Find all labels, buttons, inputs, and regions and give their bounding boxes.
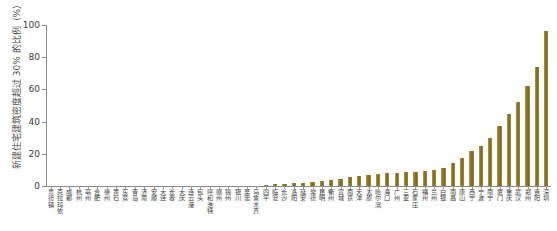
bar (423, 171, 427, 186)
bar (376, 174, 380, 186)
x-tick-label: 克拉玛依 (56, 189, 64, 215)
bar (479, 146, 483, 186)
x-tick-label: 黄石 (112, 189, 120, 202)
x-axis-labels: 景德镇克拉玛依成都杭州亳州合肥徐州黄石东营青岛济南安顺大连长春大庆连云港包头呼和… (46, 189, 551, 231)
x-tick-label: 天津 (355, 189, 363, 202)
y-tick-label: 0 (34, 181, 40, 191)
bar (348, 177, 352, 186)
x-tick-label: 杭州 (75, 189, 83, 202)
bar (404, 172, 408, 186)
bar (451, 163, 455, 186)
x-tick-label: 宁波 (477, 189, 485, 202)
bar (338, 179, 342, 186)
x-tick-label: 景德镇 (47, 189, 55, 208)
x-tick-label: 包头 (196, 189, 204, 202)
bar (441, 168, 445, 187)
x-tick-label: 郑州 (524, 189, 532, 202)
x-tick-label: 厦门 (496, 189, 504, 202)
x-tick-label: 白银 (439, 189, 447, 202)
bar (497, 126, 501, 186)
x-tick-label: 常德 (309, 189, 317, 202)
x-tick-label: 三亚 (402, 189, 410, 202)
x-tick-label: 亳州 (84, 189, 92, 202)
bar (525, 86, 529, 186)
x-tick-label: 南京 (346, 189, 354, 202)
x-tick-label: 重庆 (505, 189, 513, 202)
y-axis-title: 新建住宅建筑密度超过 30% 的比例（%） (10, 0, 23, 175)
x-tick-label: 济南 (140, 189, 148, 202)
x-tick-label: 洛阳 (290, 189, 298, 202)
bar (535, 67, 539, 186)
x-tick-label: 深圳 (542, 189, 550, 202)
x-tick-label: 长沙 (280, 189, 288, 202)
x-tick-label: 西宁 (468, 189, 476, 202)
x-tick-label: 吴忠 (243, 189, 251, 202)
bar (507, 114, 511, 186)
x-tick-label: 青岛 (131, 189, 139, 202)
bar (357, 176, 361, 186)
x-tick-label: 长春 (168, 189, 176, 202)
x-tick-label: 昆明 (318, 189, 326, 202)
bar (395, 173, 399, 186)
x-tick-label: 成都 (65, 189, 73, 202)
x-tick-label: 武汉 (514, 189, 522, 202)
x-tick-label: 衢州 (327, 189, 335, 202)
y-tick-label: 60 (29, 84, 40, 94)
x-tick-label: 太原 (365, 189, 373, 202)
y-tick-mark (42, 186, 46, 187)
bar-series (46, 25, 551, 186)
bar-chart: 新建住宅建筑密度超过 30% 的比例（%） 020406080100 景德镇克拉… (0, 0, 557, 231)
bar (516, 102, 520, 186)
x-tick-label: 徐州 (103, 189, 111, 202)
x-tick-label: 延安 (299, 189, 307, 202)
x-tick-label: 南宁 (486, 189, 494, 202)
x-tick-label: 四平 (262, 189, 270, 202)
x-tick-label: 南昌 (449, 189, 457, 202)
x-tick-label: 乌鲁木齐 (252, 189, 260, 215)
x-tick-label: 大连 (159, 189, 167, 202)
x-tick-label: 兰州 (430, 189, 438, 202)
bar (413, 172, 417, 186)
plot-area: 020406080100 (46, 25, 551, 186)
x-tick-label: 海口 (383, 189, 391, 202)
bar (460, 158, 464, 186)
x-tick-label: 贵阳 (533, 189, 541, 202)
x-tick-label: 福州 (421, 189, 429, 202)
x-tick-label: 合肥 (93, 189, 101, 202)
x-tick-label: 银川 (234, 189, 242, 202)
x-tick-label: 呼和浩特 (206, 189, 214, 215)
x-tick-label: 石家庄 (411, 189, 419, 208)
x-tick-label: 哈尔滨 (374, 189, 382, 208)
y-tick-label: 80 (29, 52, 40, 62)
x-tick-label: 锦州 (224, 189, 232, 202)
x-tick-label: 唐山 (458, 189, 466, 202)
bar (432, 170, 436, 186)
bar (544, 31, 548, 186)
x-tick-label: 大庆 (178, 189, 186, 202)
y-tick-label: 20 (29, 149, 40, 159)
x-tick-label: 赣州 (215, 189, 223, 202)
bar (366, 175, 370, 186)
x-tick-label: 东营 (121, 189, 129, 202)
x-tick-label: 临沧 (271, 189, 279, 202)
bar (385, 173, 389, 186)
y-tick-label: 100 (23, 20, 40, 30)
x-tick-label: 宣城 (337, 189, 345, 202)
y-tick-label: 40 (29, 117, 40, 127)
bar (488, 138, 492, 186)
bar (469, 151, 473, 186)
x-tick-label: 连云港 (187, 189, 195, 208)
x-tick-label: 安顺 (150, 189, 158, 202)
x-tick-label: 广州 (393, 189, 401, 202)
x-axis-line (46, 186, 551, 187)
